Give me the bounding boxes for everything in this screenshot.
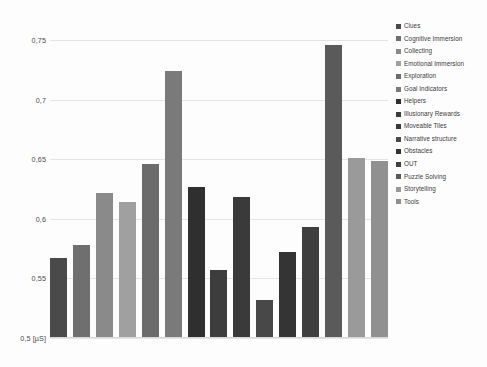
bar [165,71,182,337]
bar [371,161,388,337]
bar [73,245,90,337]
y-axis-tick-label: 0,7 [36,95,46,104]
legend-item[interactable]: Emotional Immersion [396,58,487,71]
legend-swatch-icon [396,112,401,117]
bar [279,252,296,337]
legend-swatch-icon [396,137,401,142]
legend-item-label: Illusionary Rewards [404,108,460,121]
legend-swatch-icon [396,124,401,129]
legend-item-label: Emotional Immersion [404,58,464,71]
legend-item[interactable]: Illusionary Rewards [396,108,487,121]
gridline [50,338,388,339]
legend: CluesCognitive ImmersionCollectingEmotio… [396,20,487,208]
legend-swatch-icon [396,187,401,192]
bar [96,193,113,337]
legend-item-label: Obstacles [404,145,432,158]
legend-swatch-icon [396,36,401,41]
bar [233,197,250,337]
x-axis-baseline [50,337,388,338]
y-axis-tick-label: 0,6 [36,214,46,223]
legend-item-label: Puzzle Solving [404,171,446,184]
legend-swatch-icon [396,87,401,92]
legend-item[interactable]: Cognitive Immersion [396,33,487,46]
bar [348,158,365,337]
legend-swatch-icon [396,74,401,79]
y-axis-tick-label: 0,75 [32,35,46,44]
legend-item[interactable]: Narrative structure [396,133,487,146]
legend-swatch-icon [396,61,401,66]
y-axis: 0,750,70,650,60,550,5 [µS] [0,22,46,338]
legend-item[interactable]: Clues [396,20,487,33]
bar [210,270,227,337]
legend-item-label: Cognitive Immersion [404,33,462,46]
bar [302,227,319,337]
legend-item[interactable]: Storytelling [396,183,487,196]
legend-item-label: Goal Indicators [404,83,447,96]
legend-swatch-icon [396,149,401,154]
legend-item[interactable]: Tools [396,196,487,209]
legend-item-label: Tools [404,196,419,209]
bar [188,187,205,337]
legend-item[interactable]: Goal Indicators [396,83,487,96]
bar-chart: 0,750,70,650,60,550,5 [µS] CluesCognitiv… [0,0,487,367]
bar [256,300,273,337]
legend-item-label: Clues [404,20,420,33]
legend-item-label: Moveable Tiles [404,120,447,133]
legend-item[interactable]: Helpers [396,95,487,108]
bar [119,202,136,337]
legend-item[interactable]: Puzzle Solving [396,171,487,184]
legend-item-label: Exploration [404,70,436,83]
legend-swatch-icon [396,199,401,204]
y-axis-tick-label: 0,65 [32,155,46,164]
legend-swatch-icon [396,49,401,54]
legend-item[interactable]: OUT [396,158,487,171]
bar [325,45,342,337]
bar-series [50,22,388,337]
legend-swatch-icon [396,162,401,167]
legend-swatch-icon [396,99,401,104]
y-axis-tick-label: 0,55 [32,274,46,283]
legend-item-label: Helpers [404,95,426,108]
legend-item[interactable]: Exploration [396,70,487,83]
legend-item[interactable]: Collecting [396,45,487,58]
bar [142,164,159,337]
legend-item-label: Storytelling [404,183,436,196]
legend-item[interactable]: Moveable Tiles [396,120,487,133]
legend-item-label: Narrative structure [404,133,457,146]
legend-item-label: OUT [404,158,417,171]
legend-item[interactable]: Obstacles [396,145,487,158]
bar [50,258,67,337]
plot-area [50,22,388,338]
legend-item-label: Collecting [404,45,432,58]
legend-swatch-icon [396,24,401,29]
legend-swatch-icon [396,174,401,179]
y-axis-tick-label: 0,5 [µS] [20,334,46,343]
